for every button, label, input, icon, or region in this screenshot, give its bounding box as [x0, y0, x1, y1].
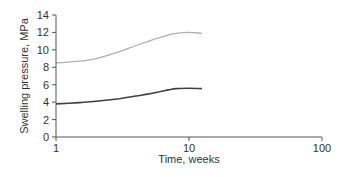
y-tick-label: 0 [43, 131, 49, 143]
plot-lines [56, 32, 202, 104]
swelling-pressure-chart: 02468101214110100 Time, weeks Swelling p… [0, 0, 349, 177]
y-tick-label: 6 [43, 79, 49, 91]
y-tick-label: 12 [37, 26, 49, 38]
y-tick-label: 10 [37, 44, 49, 56]
x-tick-label: 1 [53, 142, 59, 154]
series-upper-line [56, 32, 202, 63]
y-tick-label: 8 [43, 61, 49, 73]
y-tick-label: 4 [43, 96, 49, 108]
y-axis-label: Swelling pressure, MPa [18, 17, 30, 133]
axes: 02468101214110100 [37, 9, 331, 154]
x-axis-label: Time, weeks [158, 153, 220, 165]
y-tick-label: 14 [37, 9, 49, 21]
x-tick-label: 100 [313, 142, 331, 154]
y-tick-label: 2 [43, 114, 49, 126]
series-lower-line [56, 88, 202, 104]
